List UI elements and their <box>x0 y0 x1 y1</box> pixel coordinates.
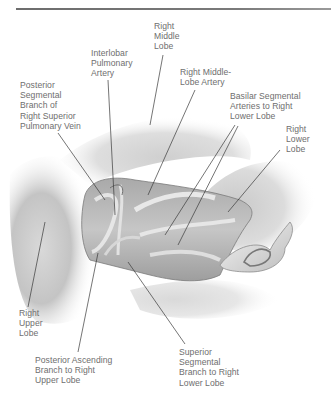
label-right-middle-lobe: Right Middle Lobe <box>154 21 180 52</box>
right-middle-lobe-shape <box>60 116 251 185</box>
label-right-lower-lobe: Right Lower Lobe <box>286 124 310 155</box>
label-right-upper-lobe: Right Upper Lobe <box>19 308 43 339</box>
label-interlobar-pulmonary-artery: Interlobar Pulmonary Artery <box>91 48 133 79</box>
label-right-middle-lobe-artery: Right Middle- Lobe Artery <box>180 67 231 87</box>
leader-right-middle-lobe <box>150 55 163 125</box>
lung-hilum-illustration <box>0 0 331 410</box>
label-posterior-segmental-branch-vein: Posterior Segmental Branch of Right Supe… <box>20 80 81 131</box>
label-superior-segmental-branch: Superior Segmental Branch to Right Lower… <box>179 347 239 388</box>
label-basilar-segmental-arteries: Basilar Segmental Arteries to Right Lowe… <box>230 91 301 122</box>
label-posterior-ascending-branch: Posterior Ascending Branch to Right Uppe… <box>35 355 112 386</box>
